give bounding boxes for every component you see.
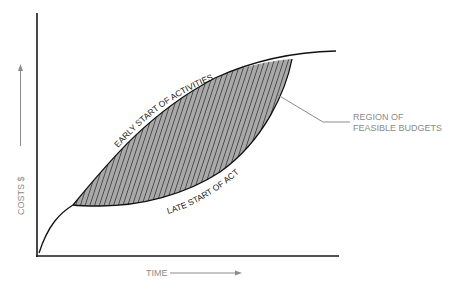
feasible-region-hatch xyxy=(60,40,310,220)
x-axis-label: TIME xyxy=(146,268,168,278)
budget-feasibility-diagram: EARLY START OF ACTIVITIES LATE START OF … xyxy=(0,0,451,291)
y-axis-label: COSTS $ xyxy=(16,176,26,215)
y-arrowhead-icon xyxy=(18,64,23,71)
region-label-line1: REGION OF xyxy=(353,112,404,122)
region-leader-line xyxy=(278,95,350,122)
region-label-line2: FEASIBLE BUDGETS xyxy=(353,123,442,133)
diagram-canvas: EARLY START OF ACTIVITIES LATE START OF … xyxy=(0,0,451,291)
x-arrowhead-icon xyxy=(235,271,242,276)
